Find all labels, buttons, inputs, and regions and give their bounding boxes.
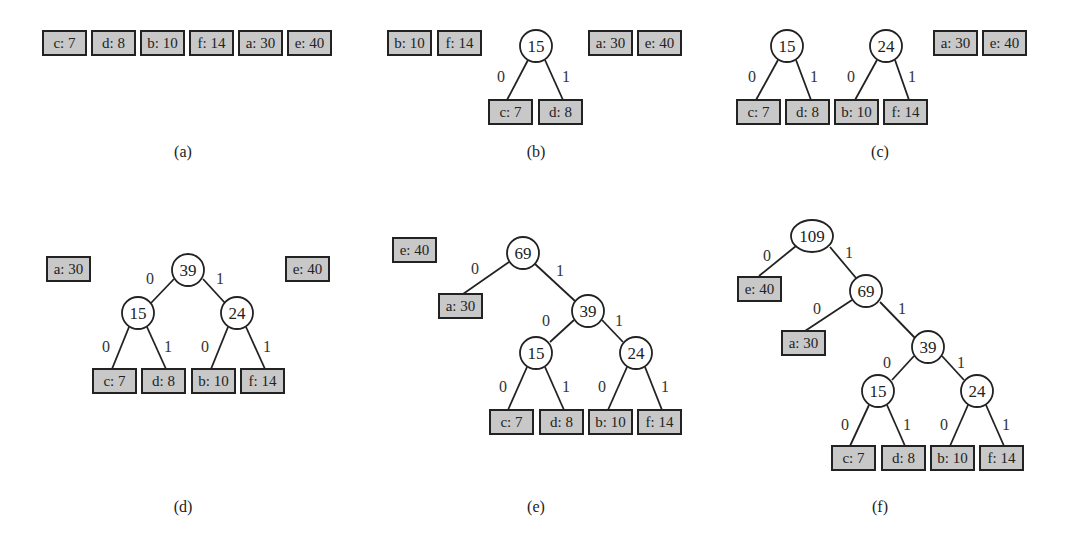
edge-label: 1 [957, 354, 965, 371]
internal-node: 109 [791, 220, 833, 252]
leaf-node: d: 8 [539, 100, 582, 124]
edge-label: 0 [813, 300, 821, 317]
internal-node: 15 [520, 337, 552, 369]
leaf-node: a: 30 [934, 31, 977, 55]
edge-label: 1 [556, 262, 564, 279]
tree-edge [950, 405, 968, 446]
leaf-node: d: 8 [882, 446, 925, 470]
edge-label: 1 [908, 68, 916, 85]
leaf-node: a: 30 [782, 331, 825, 355]
node-weight: 109 [799, 227, 825, 246]
leaf-node: a: 30 [589, 31, 632, 55]
leaf-label: a: 30 [789, 335, 819, 351]
internal-node: 24 [620, 337, 652, 369]
leaf-label: b: 10 [937, 450, 967, 466]
panel-caption: (a) [174, 143, 192, 161]
internal-node: 39 [572, 295, 604, 327]
tree-edge [535, 264, 575, 301]
tree-edge [507, 60, 528, 100]
node-weight: 15 [130, 304, 147, 323]
node-weight: 15 [528, 344, 545, 363]
leaf-node: a: 30 [47, 257, 90, 281]
leaf-label: a: 30 [941, 35, 971, 51]
edge-label: 1 [903, 416, 911, 433]
edge-label: 0 [102, 338, 110, 355]
internal-node: 69 [850, 275, 882, 307]
leaf-node: f: 14 [190, 31, 233, 55]
leaf-label: d: 8 [549, 104, 572, 120]
leaf-node: f: 14 [638, 410, 681, 434]
leaf-label: f: 14 [892, 104, 920, 120]
tree-edge [151, 279, 174, 303]
edge-label: 0 [146, 270, 154, 287]
panel-b: 01b: 10f: 14c: 7d: 8a: 30e: 4015(b) [388, 30, 681, 161]
edge-label: 0 [763, 247, 771, 264]
tree-edge [895, 60, 909, 100]
tree-edge [796, 60, 811, 100]
node-weight: 15 [870, 382, 887, 401]
leaf-label: b: 10 [198, 373, 228, 389]
leaf-node: b: 10 [835, 100, 878, 124]
edge-label: 0 [883, 354, 891, 371]
tree-edge [892, 356, 914, 380]
internal-node: 24 [870, 30, 902, 62]
leaf-node: d: 8 [786, 100, 829, 124]
node-weight: 15 [528, 37, 545, 56]
internal-node: 69 [507, 237, 539, 269]
leaf-label: f: 14 [646, 414, 674, 430]
leaf-label: f: 14 [446, 35, 474, 51]
leaf-node: f: 14 [241, 369, 284, 393]
leaf-node: c: 7 [93, 369, 136, 393]
edge-label: 1 [216, 270, 224, 287]
leaf-node: e: 40 [983, 31, 1026, 55]
panel-a: c: 7d: 8b: 10f: 14a: 30e: 40(a) [43, 31, 331, 161]
internal-node: 15 [771, 30, 803, 62]
panel-c: 0101c: 7d: 8b: 10f: 14a: 30e: 401524(c) [737, 30, 1026, 161]
leaf-label: e: 40 [745, 281, 775, 297]
edge-label: 1 [1002, 416, 1010, 433]
tree-edge [211, 327, 228, 369]
leaf-label: f: 14 [198, 35, 226, 51]
edge-label: 0 [598, 378, 606, 395]
leaf-node: c: 7 [832, 446, 875, 470]
tree-edge [608, 367, 627, 410]
node-weight: 39 [920, 338, 937, 357]
leaf-node: e: 40 [393, 238, 436, 262]
leaf-label: b: 10 [841, 104, 871, 120]
edge-label: 1 [562, 378, 570, 395]
edge-label: 1 [898, 300, 906, 317]
leaf-node: b: 10 [141, 31, 184, 55]
panel-f: 0101010101e: 40a: 30c: 7d: 8b: 10f: 1410… [738, 220, 1023, 516]
leaf-label: e: 40 [990, 35, 1020, 51]
leaf-node: f: 14 [884, 100, 927, 124]
leaf-node: e: 40 [638, 31, 681, 55]
tree-edge [645, 367, 662, 410]
leaf-node: b: 10 [589, 410, 632, 434]
leaf-node: c: 7 [737, 100, 780, 124]
leaf-label: d: 8 [152, 373, 175, 389]
node-weight: 69 [515, 244, 532, 263]
panel-e: 01010101e: 40a: 30c: 7d: 8b: 10f: 146939… [393, 237, 681, 516]
leaf-node: a: 30 [439, 294, 482, 318]
edge-label: 0 [847, 68, 855, 85]
tree-edge [508, 367, 527, 410]
panel-caption: (e) [527, 498, 545, 516]
leaf-node: d: 8 [92, 31, 135, 55]
edge-label: 0 [497, 68, 505, 85]
tree-edge [112, 327, 129, 369]
node-weight: 24 [878, 37, 896, 56]
node-weight: 15 [779, 37, 796, 56]
node-weight: 39 [180, 261, 197, 280]
leaf-node: b: 10 [192, 369, 235, 393]
internal-node: 15 [862, 375, 894, 407]
edge-label: 0 [471, 260, 479, 277]
edge-label: 0 [748, 68, 756, 85]
leaf-label: c: 7 [53, 35, 76, 51]
leaf-label: a: 30 [54, 261, 84, 277]
edge-label: 0 [940, 416, 948, 433]
leaf-label: e: 40 [293, 261, 323, 277]
tree-edge [756, 60, 778, 100]
leaf-label: d: 8 [102, 35, 125, 51]
leaf-label: e: 40 [645, 35, 675, 51]
edge-label: 0 [201, 338, 209, 355]
